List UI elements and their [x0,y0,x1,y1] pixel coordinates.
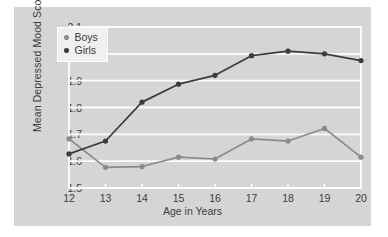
data-point-boys-20 [358,155,363,160]
data-point-girls-13 [103,138,108,143]
data-point-girls-18 [285,49,290,54]
data-point-girls-20 [358,58,363,63]
series-points-group [66,49,363,170]
data-point-boys-16 [212,156,217,161]
data-point-boys-19 [322,126,327,131]
legend-label: Boys [75,31,98,44]
data-point-boys-17 [249,136,254,141]
legend-item-girls: Girls [64,44,98,57]
data-point-boys-14 [139,164,144,169]
data-point-girls-15 [176,82,181,87]
data-point-boys-15 [176,155,181,160]
legend-marker-icon [64,35,69,40]
data-point-boys-12 [66,136,71,141]
series-lines-group [69,51,361,167]
data-point-boys-13 [103,165,108,170]
series-line-girls [69,51,361,154]
data-point-boys-18 [285,138,290,143]
chart-figure: Mean Depressed Mood Score Age in Years 1… [14,7,371,226]
chart-legend: BoysGirls [57,27,108,62]
data-point-girls-12 [66,151,71,156]
data-point-girls-14 [139,100,144,105]
data-point-girls-19 [322,51,327,56]
legend-marker-icon [64,48,69,53]
plot-wrapper: Mean Depressed Mood Score Age in Years 1… [14,7,371,226]
legend-item-boys: Boys [64,31,98,44]
data-point-girls-17 [249,53,254,58]
legend-label: Girls [75,44,97,57]
data-point-girls-16 [212,73,217,78]
gridlines-group [69,27,361,188]
